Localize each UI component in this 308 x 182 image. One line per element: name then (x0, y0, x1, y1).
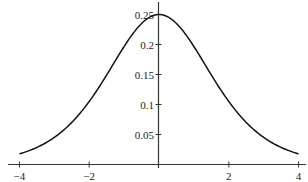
y-tick-label: 0.1 (140, 99, 154, 111)
x-tick-label: 2 (226, 170, 232, 182)
y-tick-label: 0.25 (135, 9, 155, 21)
x-tick-label: 4 (296, 170, 302, 182)
x-tick-label: −2 (83, 170, 95, 182)
y-tick-label: 0.05 (135, 129, 155, 141)
y-ticks: 0.050.10.150.20.25 (135, 9, 162, 141)
y-tick-label: 0.2 (140, 39, 154, 51)
y-tick-label: 0.15 (135, 69, 155, 81)
axes (8, 2, 306, 168)
chart: −4−224 0.050.10.150.20.25 (0, 0, 308, 182)
x-tick-label: −4 (14, 170, 26, 182)
